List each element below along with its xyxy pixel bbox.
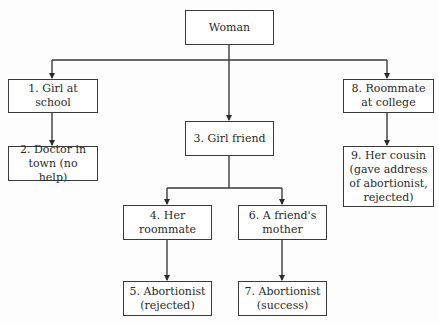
node-label: 2. Doctor in town (no help) <box>13 143 93 185</box>
node-8-roommate-at-college: 8. Roommate at college <box>343 79 434 113</box>
node-woman-label: Woman <box>209 21 250 35</box>
node-4-her-roommate: 4. Her roommate <box>123 205 212 240</box>
node-3-girl-friend: 3. Girl friend <box>185 121 274 156</box>
node-label: 7. Abortionist (success) <box>244 285 320 313</box>
node-label: 8. Roommate at college <box>352 82 426 110</box>
node-9-her-cousin: 9. Her cousin (gave address of abortioni… <box>343 146 434 207</box>
node-label: 1. Girl at school <box>28 82 78 110</box>
diagram-canvas: Woman 1. Girl at school 2. Doctor in tow… <box>0 0 439 325</box>
node-woman: Woman <box>185 10 274 45</box>
node-label: 6. A friend's mother <box>249 209 317 237</box>
node-label: 5. Abortionist (rejected) <box>129 285 205 313</box>
node-6-friends-mother: 6. A friend's mother <box>238 205 327 240</box>
node-5-abortionist-rejected: 5. Abortionist (rejected) <box>123 281 212 316</box>
node-label: 4. Her roommate <box>139 209 196 237</box>
node-1-girl-at-school: 1. Girl at school <box>8 79 98 113</box>
node-7-abortionist-success: 7. Abortionist (success) <box>238 281 327 316</box>
node-label: 9. Her cousin (gave address of abortioni… <box>349 149 427 205</box>
node-label: 3. Girl friend <box>193 132 265 146</box>
node-2-doctor-in-town: 2. Doctor in town (no help) <box>8 146 98 181</box>
